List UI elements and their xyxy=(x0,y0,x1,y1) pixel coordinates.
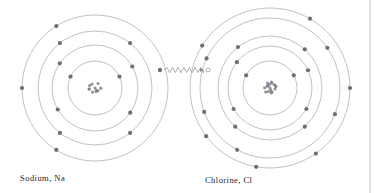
sodium-electron-s3-3[interactable] xyxy=(58,41,62,45)
chlorine-nucleus xyxy=(263,80,277,94)
chlorine-electron-s3-3[interactable] xyxy=(236,45,240,49)
sodium-electron-s2-3[interactable] xyxy=(58,61,62,65)
chlorine-atom-group[interactable] xyxy=(190,8,352,169)
chlorine-electron-s3-2[interactable] xyxy=(303,125,307,129)
nucleus-particle xyxy=(267,90,270,93)
sodium-atom-group[interactable] xyxy=(20,15,168,161)
nucleus-particle xyxy=(91,91,94,94)
chlorine-electron-s2-4[interactable] xyxy=(306,68,310,72)
sodium-electron-s3-4[interactable] xyxy=(128,41,132,45)
chlorine-electron-s1-2[interactable] xyxy=(292,73,296,77)
nucleus-particle xyxy=(97,89,100,92)
chlorine-electron-s5-1[interactable] xyxy=(204,134,208,138)
sodium-electron-s3-2[interactable] xyxy=(128,131,132,135)
sodium-nucleus xyxy=(88,82,103,94)
nucleus-particle xyxy=(264,90,267,93)
nucleus-particle xyxy=(97,82,100,85)
sodium-electron-s4-1[interactable] xyxy=(20,86,24,90)
sodium-electron-s2-1[interactable] xyxy=(56,107,60,111)
sodium-electron-s2-4[interactable] xyxy=(130,64,134,68)
chlorine-electron-vacancy[interactable] xyxy=(206,68,210,72)
chlorine-electron-s5-6[interactable] xyxy=(308,17,312,21)
sodium-electron-s3-1[interactable] xyxy=(58,131,62,135)
chlorine-electron-s3-1[interactable] xyxy=(233,125,237,129)
sodium-valence-electron[interactable] xyxy=(158,68,162,72)
nucleus-particle xyxy=(274,84,277,87)
chlorine-electron-s5-2[interactable] xyxy=(254,165,258,169)
chlorine-electron-s2-1[interactable] xyxy=(232,107,236,111)
chlorine-electron-s2-2[interactable] xyxy=(304,107,308,111)
sodium-electron-s4-3[interactable] xyxy=(54,24,58,28)
chlorine-electron-s4-3[interactable] xyxy=(333,112,337,116)
chlorine-atom-label: Chlorine, Cl xyxy=(205,175,252,185)
sodium-electron-s2-2[interactable] xyxy=(128,111,132,115)
electron-transfer-zigzag xyxy=(164,67,204,72)
atom-diagram-canvas: Sodium, Na Chlorine, Cl xyxy=(0,0,375,193)
chlorine-electron-s1-1[interactable] xyxy=(244,73,248,77)
nucleus-particle xyxy=(91,83,94,86)
bohr-model-diagram xyxy=(0,0,375,193)
nucleus-particle xyxy=(88,88,91,91)
chlorine-electron-s5-3[interactable] xyxy=(314,151,318,155)
chlorine-electron-s4-5[interactable] xyxy=(325,46,329,50)
sodium-electron-s4-2[interactable] xyxy=(54,148,58,152)
chlorine-electron-s4-1[interactable] xyxy=(202,110,206,114)
chlorine-electron-s3-4[interactable] xyxy=(303,47,307,51)
nucleus-particle xyxy=(263,86,266,89)
chlorine-electron-s2-3[interactable] xyxy=(235,60,239,64)
sodium-electron-s1-1[interactable] xyxy=(68,74,72,78)
nucleus-particle xyxy=(99,87,102,90)
chlorine-electron-s4-4[interactable] xyxy=(204,56,208,60)
chlorine-electron-s5-5[interactable] xyxy=(200,44,204,48)
chlorine-electron-s5-4[interactable] xyxy=(348,86,352,90)
sodium-electron-s1-2[interactable] xyxy=(117,74,121,78)
chlorine-electron-s4-2[interactable] xyxy=(235,148,239,152)
sodium-atom-label: Sodium, Na xyxy=(20,173,65,183)
nucleus-particle xyxy=(274,88,277,91)
